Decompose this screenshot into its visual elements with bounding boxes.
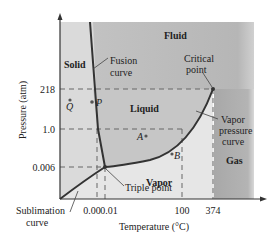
y-tick-0006: 0.006 [33, 162, 56, 173]
triple-point-label: Triple point [125, 182, 172, 193]
gas-label: Gas [226, 155, 243, 166]
solid-label: Solid [64, 59, 86, 70]
vapor-pressure-label-line3: curve [222, 136, 245, 147]
point-a-marker [144, 134, 147, 137]
liquid-label: Liquid [130, 103, 159, 114]
point-q-label: Q [66, 101, 74, 112]
critical-point-marker [211, 87, 215, 91]
fluid-label: Fluid [164, 30, 187, 41]
y-axis-title: Pressure (atm) [17, 81, 29, 139]
point-b-label: B [174, 150, 180, 161]
x-tick-374: 374 [206, 205, 221, 216]
phase-diagram: Solid Liquid Vapor Fluid Gas Fusion curv… [0, 0, 278, 237]
vapor-pressure-label-line2: pressure [219, 125, 253, 136]
point-p-marker [90, 100, 94, 104]
x-axis-title: Temperature (°C) [119, 221, 189, 233]
sublimation-curve-label-line1: Sublimation [16, 205, 65, 216]
triple-point-marker [103, 165, 107, 169]
y-tick-1: 1.0 [43, 124, 56, 135]
critical-point-label-line1: Critical [184, 53, 214, 64]
fusion-curve-label-line2: curve [110, 67, 133, 78]
sublimation-curve-label-line2: curve [26, 217, 49, 228]
x-axis-arrow-icon [260, 197, 267, 202]
y-tick-218: 218 [40, 84, 55, 95]
fusion-curve-label-line1: Fusion [110, 55, 137, 66]
point-p-label: P [95, 97, 102, 108]
y-axis-arrow-icon [58, 13, 63, 20]
x-tick-001: 0.01 [100, 205, 118, 216]
x-tick-100: 100 [175, 205, 190, 216]
x-tick-000: 0.00 [83, 205, 101, 216]
vapor-pressure-label-line1: Vapor [221, 114, 246, 125]
point-a-label: A [136, 131, 144, 142]
critical-point-label-line2: point [186, 64, 207, 75]
